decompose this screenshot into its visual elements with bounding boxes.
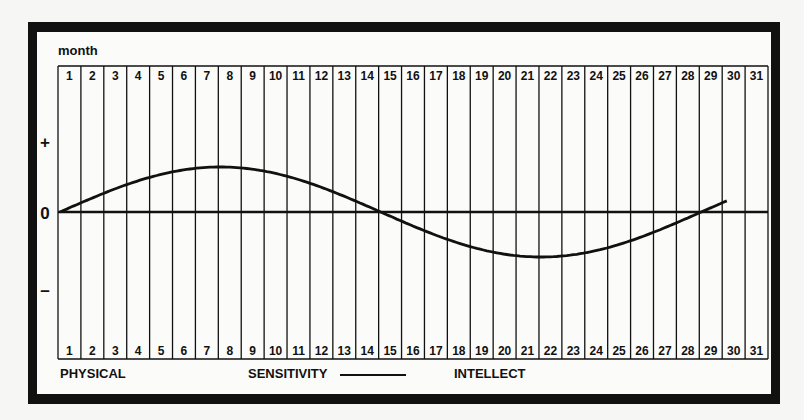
day-label-top: 15 xyxy=(383,69,397,83)
day-label-bottom: 25 xyxy=(612,344,626,358)
day-label-top: 24 xyxy=(590,69,604,83)
day-label-top: 11 xyxy=(292,69,305,83)
day-label-top: 27 xyxy=(658,69,672,83)
day-label-bottom: 10 xyxy=(269,344,283,358)
legend-physical: PHYSICAL xyxy=(60,366,126,381)
day-label-top: 7 xyxy=(204,69,211,83)
day-label-top: 26 xyxy=(635,69,649,83)
day-label-top: 10 xyxy=(269,69,283,83)
day-label-top: 6 xyxy=(181,69,188,83)
day-label-bottom: 4 xyxy=(135,344,142,358)
day-label-bottom: 5 xyxy=(158,344,165,358)
day-label-bottom: 21 xyxy=(521,344,535,358)
day-label-bottom: 28 xyxy=(681,344,695,358)
day-label-top: 20 xyxy=(498,69,512,83)
day-label-top: 8 xyxy=(226,69,233,83)
day-label-bottom: 12 xyxy=(315,344,329,358)
day-label-bottom: 16 xyxy=(406,344,420,358)
day-label-top: 31 xyxy=(750,69,764,83)
day-label-bottom: 3 xyxy=(112,344,119,358)
day-label-top: 2 xyxy=(89,69,96,83)
y-tick-label: 0 xyxy=(40,204,49,223)
day-label-bottom: 20 xyxy=(498,344,512,358)
day-label-bottom: 15 xyxy=(383,344,397,358)
day-label-top: 5 xyxy=(158,69,165,83)
day-label-bottom: 13 xyxy=(338,344,352,358)
legend-sensitivity: SENSITIVITY xyxy=(248,366,327,381)
day-label-top: 3 xyxy=(112,69,119,83)
day-label-bottom: 19 xyxy=(475,344,489,358)
day-label-bottom: 17 xyxy=(429,344,443,358)
day-label-top: 12 xyxy=(315,69,329,83)
day-label-bottom: 27 xyxy=(658,344,672,358)
day-label-bottom: 14 xyxy=(361,344,375,358)
day-label-bottom: 24 xyxy=(590,344,604,358)
day-label-bottom: 23 xyxy=(567,344,581,358)
day-label-top: 29 xyxy=(704,69,718,83)
day-label-top: 25 xyxy=(612,69,626,83)
day-label-bottom: 7 xyxy=(204,344,211,358)
legend-sensitivity-line xyxy=(340,374,406,376)
day-label-bottom: 6 xyxy=(181,344,188,358)
day-label-top: 17 xyxy=(429,69,443,83)
day-label-top: 30 xyxy=(727,69,741,83)
day-label-top: 18 xyxy=(452,69,466,83)
day-label-top: 14 xyxy=(361,69,375,83)
day-label-bottom: 26 xyxy=(635,344,649,358)
day-label-top: 22 xyxy=(544,69,558,83)
day-label-top: 4 xyxy=(135,69,142,83)
day-label-bottom: 29 xyxy=(704,344,718,358)
y-tick-label: + xyxy=(40,133,50,152)
day-label-top: 9 xyxy=(249,69,256,83)
day-label-bottom: 31 xyxy=(750,344,764,358)
day-label-top: 13 xyxy=(338,69,352,83)
day-label-top: 16 xyxy=(406,69,420,83)
day-label-bottom: 22 xyxy=(544,344,558,358)
y-tick-label: – xyxy=(40,281,49,300)
day-label-bottom: 8 xyxy=(226,344,233,358)
day-label-bottom: 1 xyxy=(66,344,73,358)
biorhythm-chart: 1122334455667788991010111112121313141415… xyxy=(0,0,804,420)
day-label-top: 21 xyxy=(521,69,535,83)
day-label-top: 1 xyxy=(66,69,73,83)
day-label-top: 19 xyxy=(475,69,489,83)
day-label-bottom: 2 xyxy=(89,344,96,358)
day-label-top: 28 xyxy=(681,69,695,83)
legend-intellect: INTELLECT xyxy=(454,366,526,381)
day-label-bottom: 11 xyxy=(292,344,305,358)
day-label-bottom: 18 xyxy=(452,344,466,358)
day-label-bottom: 30 xyxy=(727,344,741,358)
day-label-top: 23 xyxy=(567,69,581,83)
day-label-bottom: 9 xyxy=(249,344,256,358)
